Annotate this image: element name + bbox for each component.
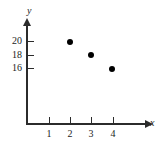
y-axis-line	[26, 24, 28, 124]
x-tick-mark-4	[113, 117, 114, 124]
data-point	[109, 66, 115, 72]
x-tick-label-3: 3	[83, 129, 99, 139]
x-tick-mark-3	[91, 117, 92, 124]
x-tick-label-2: 2	[62, 129, 78, 139]
y-tick-label-16-holder: 16	[0, 63, 24, 73]
y-tick-label-18: 18	[0, 50, 22, 60]
x-tick-mark-1	[49, 117, 50, 124]
y-tick-mark-18	[27, 55, 34, 56]
data-point	[88, 52, 94, 58]
y-tick-label-20: 20	[0, 36, 22, 46]
y-axis-label: y	[27, 6, 31, 16]
x-axis-line	[26, 123, 147, 125]
y-tick-label-20-holder: 20	[0, 36, 24, 46]
x-tick-label-4: 4	[105, 129, 121, 139]
x-tick-label-1: 1	[41, 129, 57, 139]
scatter-plot-figure: y 20 18 16 x 1 2 3 4	[0, 0, 159, 148]
y-axis-arrowhead-icon	[23, 18, 31, 26]
x-axis-label: x	[150, 118, 154, 128]
x-tick-mark-2	[70, 117, 71, 124]
y-tick-label-18-holder: 18	[0, 50, 24, 60]
data-point	[67, 39, 73, 45]
y-tick-mark-16	[27, 68, 34, 69]
y-tick-mark-20	[27, 41, 34, 42]
y-tick-label-16: 16	[0, 63, 22, 73]
